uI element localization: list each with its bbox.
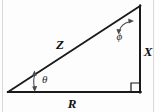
- phi-arrowhead-icon: [128, 19, 134, 24]
- side-z-label: Z: [55, 37, 64, 52]
- right-angle-icon: [131, 83, 140, 92]
- triangle-diagram: θ ϕ Z X R: [0, 0, 156, 112]
- side-z-line: [8, 6, 140, 92]
- side-x-label: X: [143, 44, 153, 59]
- side-r-label: R: [67, 96, 77, 111]
- angle-phi-label: ϕ: [117, 30, 123, 42]
- triangle-diagram-svg: θ ϕ Z X R: [0, 0, 156, 112]
- angle-theta-label: θ: [42, 73, 48, 85]
